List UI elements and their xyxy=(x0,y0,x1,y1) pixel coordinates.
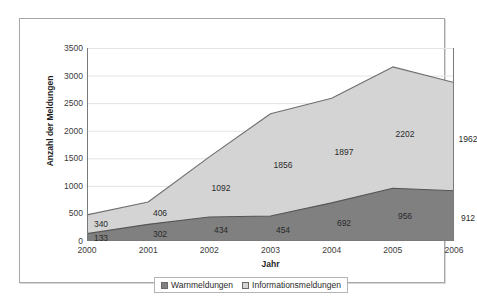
y-tick-label: 500 xyxy=(45,209,83,218)
x-tick-label: 2001 xyxy=(139,245,158,255)
legend-label: Informationsmeldungen xyxy=(252,280,341,290)
x-tick-label: 2005 xyxy=(383,245,402,255)
y-tick-label: 3000 xyxy=(45,71,83,80)
y-axis-title-holder: Anzahl der Meldungen xyxy=(20,48,40,241)
data-label-warn-2006: 912 xyxy=(461,214,475,223)
y-tick-label: 2000 xyxy=(45,126,83,135)
x-axis-ticks: 2000 2001 2002 2003 2004 2005 2006 xyxy=(87,245,454,259)
y-tick-label: 3500 xyxy=(45,44,83,53)
y-tick-label: 1500 xyxy=(45,154,83,163)
x-tick-label: 2000 xyxy=(78,245,97,255)
legend-swatch-icon xyxy=(161,282,168,289)
data-label-info-2003: 1856 xyxy=(274,161,293,170)
legend-item-informationsmeldungen[interactable]: Informationsmeldungen xyxy=(242,280,341,290)
x-tick-label: 2003 xyxy=(261,245,280,255)
data-label-info-2006: 1962 xyxy=(459,135,477,144)
y-tick-label: 0 xyxy=(45,237,83,246)
chart-frame: Anzahl der Meldungen 3500 3000 2500 2000… xyxy=(19,18,445,283)
legend-item-warnmeldungen[interactable]: Warnmeldungen xyxy=(161,280,233,290)
data-label-warn-2002: 434 xyxy=(214,226,228,235)
legend-label: Warnmeldungen xyxy=(171,280,233,290)
data-label-info-2000: 340 xyxy=(94,220,108,229)
chart-legend: Warnmeldungen Informationsmeldungen xyxy=(154,277,348,293)
data-label-info-2002: 1092 xyxy=(212,184,231,193)
data-label-info-2004: 1897 xyxy=(335,148,354,157)
legend-swatch-icon xyxy=(242,282,249,289)
data-label-warn-2005: 956 xyxy=(398,212,412,221)
x-axis-title: Jahr xyxy=(87,259,454,269)
data-label-info-2005: 2202 xyxy=(396,130,415,139)
plot-area: 340 406 1092 1856 1897 2202 1962 133 302… xyxy=(87,48,454,241)
data-label-warn-2004: 692 xyxy=(337,219,351,228)
data-label-warn-2001: 302 xyxy=(153,230,167,239)
y-axis-ticks: 3500 3000 2500 2000 1500 1000 500 0 xyxy=(41,48,83,241)
x-tick-label: 2006 xyxy=(445,245,464,255)
x-tick-label: 2004 xyxy=(322,245,341,255)
data-label-info-2001: 406 xyxy=(153,209,167,218)
y-tick-label: 2500 xyxy=(45,99,83,108)
y-tick-label: 1000 xyxy=(45,182,83,191)
x-tick-label: 2002 xyxy=(200,245,219,255)
data-label-warn-2003: 454 xyxy=(276,226,290,235)
data-label-warn-2000: 133 xyxy=(94,234,108,243)
